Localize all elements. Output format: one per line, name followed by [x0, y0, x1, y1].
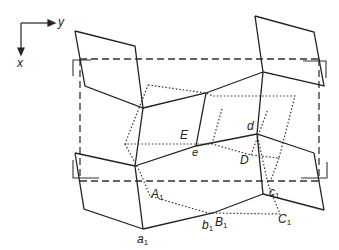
label-e: e [192, 147, 198, 158]
label-C1: C1 [278, 213, 291, 227]
label-D: D [240, 154, 249, 166]
axis-indicator [18, 20, 55, 55]
label-b1: b1 [202, 219, 213, 233]
label-B1: B1 [215, 216, 227, 230]
label-E: E [180, 129, 188, 141]
x-axis-label: x [17, 57, 23, 69]
framework-solid [75, 16, 324, 229]
label-c1: c1 [269, 186, 279, 200]
diagram-canvas: y x E e d D A1 a1 b1 B1 c1 C1 [0, 0, 339, 250]
label-a1: a1 [137, 233, 148, 247]
label-A1: A1 [151, 188, 163, 202]
label-d: d [247, 120, 254, 132]
y-axis-label: y [58, 16, 64, 28]
